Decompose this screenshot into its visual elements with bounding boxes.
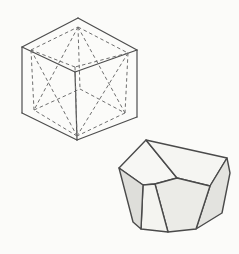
diagram-svg [0,0,239,254]
cube-edge-topFront-topLeft [22,47,75,72]
inscribed-edge-TL-BL [31,50,34,110]
inscribed-edge-TR-TF [75,53,128,67]
inscribed-edge-TF-TL [31,50,75,67]
cube-edge-topLeft-topBack [22,18,78,47]
inscribed-edge-BL-BB [34,89,80,110]
cube-edge-topBack-topRight [78,18,137,50]
crystal-figure [119,140,230,232]
inscribed-edge-TB-BB [78,27,80,89]
cube-edge-bottomLeft-bottomFront [22,113,77,140]
illustration-page [0,0,239,254]
inscribed-form [31,27,128,136]
cube-edge-bottomFront-bottomRight [77,117,137,140]
inscribed-edge-TR-BR [125,53,128,113]
